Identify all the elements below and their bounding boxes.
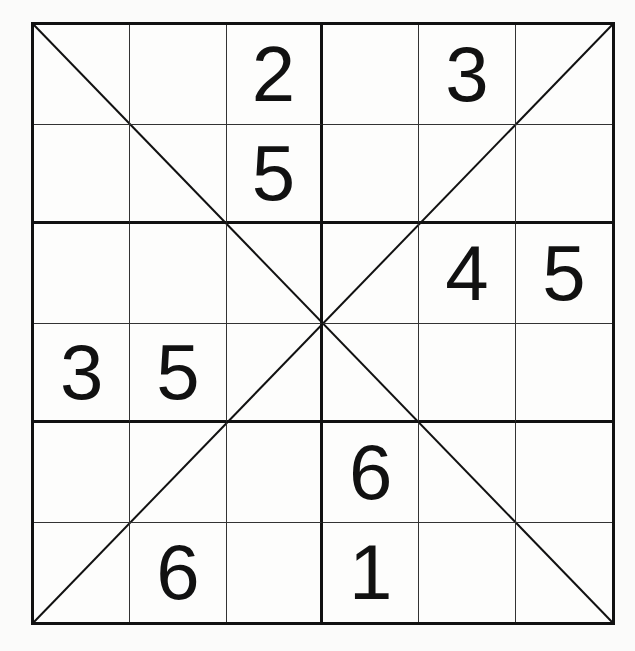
cell-r4-c3[interactable] (227, 324, 323, 424)
cell-r1-c6[interactable] (516, 25, 612, 125)
cell-r6-c5[interactable] (419, 523, 515, 623)
cell-r4-c2[interactable]: 5 (130, 324, 226, 424)
cell-r3-c1[interactable] (34, 224, 130, 324)
cell-r6-c4[interactable]: 1 (323, 523, 419, 623)
sudoku-grid: 2354535661 (31, 22, 615, 625)
cell-r2-c5[interactable] (419, 125, 515, 225)
cell-r2-c4[interactable] (323, 125, 419, 225)
cell-r5-c5[interactable] (419, 423, 515, 523)
cell-r6-c3[interactable] (227, 523, 323, 623)
cell-r4-c4[interactable] (323, 324, 419, 424)
cell-r2-c2[interactable] (130, 125, 226, 225)
cell-r3-c3[interactable] (227, 224, 323, 324)
cell-r5-c4[interactable]: 6 (323, 423, 419, 523)
cell-r2-c1[interactable] (34, 125, 130, 225)
cell-r6-c6[interactable] (516, 523, 612, 623)
cell-r4-c1[interactable]: 3 (34, 324, 130, 424)
cell-r1-c5[interactable]: 3 (419, 25, 515, 125)
cell-r5-c2[interactable] (130, 423, 226, 523)
cell-r1-c3[interactable]: 2 (227, 25, 323, 125)
cell-r1-c1[interactable] (34, 25, 130, 125)
cell-r1-c2[interactable] (130, 25, 226, 125)
cell-r3-c4[interactable] (323, 224, 419, 324)
cell-r3-c5[interactable]: 4 (419, 224, 515, 324)
cell-r3-c6[interactable]: 5 (516, 224, 612, 324)
cell-r1-c4[interactable] (323, 25, 419, 125)
cell-r6-c2[interactable]: 6 (130, 523, 226, 623)
cell-r2-c3[interactable]: 5 (227, 125, 323, 225)
cell-r4-c5[interactable] (419, 324, 515, 424)
cell-r5-c6[interactable] (516, 423, 612, 523)
sudoku-puzzle: 2354535661 (31, 22, 615, 625)
cell-r5-c3[interactable] (227, 423, 323, 523)
cell-r6-c1[interactable] (34, 523, 130, 623)
cell-r5-c1[interactable] (34, 423, 130, 523)
cell-r3-c2[interactable] (130, 224, 226, 324)
cell-r4-c6[interactable] (516, 324, 612, 424)
cell-r2-c6[interactable] (516, 125, 612, 225)
